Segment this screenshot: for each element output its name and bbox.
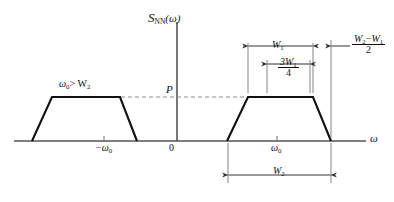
y-axis-label-argument: (ω) bbox=[165, 12, 180, 24]
tick-label-negative-omega0-symbol: −ω bbox=[95, 142, 109, 153]
fraction-w2-minus-w1-over-2: W2−W1 2 bbox=[352, 34, 385, 55]
x-axis-label: ω bbox=[370, 133, 378, 144]
tick-label-negative-omega0-subscript: 0 bbox=[109, 147, 112, 154]
amplitude-label-P: P bbox=[166, 84, 173, 95]
dimension-label-three-quarters-w1: 3W1 4 bbox=[278, 57, 299, 78]
condition-omega-symbol: ω bbox=[59, 78, 66, 89]
tick-label-positive-omega0: ω0 bbox=[271, 143, 281, 153]
fraction-numerator-symbol: 3W bbox=[280, 56, 293, 67]
y-axis-label-subscript: NN bbox=[155, 17, 166, 26]
y-axis-label: SNN(ω) bbox=[148, 11, 180, 24]
dimension-label-w1: W1 bbox=[272, 40, 284, 50]
dimension-label-half-bandwidth-difference: W2−W1 2 bbox=[352, 34, 385, 55]
y-axis-label-symbol: S bbox=[148, 10, 155, 25]
condition-omega-subscript: 0 bbox=[66, 83, 69, 90]
negative-frequency-trapezoid bbox=[32, 97, 137, 141]
numerator-w1-symbol: W bbox=[371, 33, 379, 44]
psd-plot-svg bbox=[0, 0, 394, 202]
condition-w2-subscript: 2 bbox=[87, 83, 90, 90]
condition-inequality: > W bbox=[69, 78, 87, 89]
condition-label: ω0> W2 bbox=[59, 79, 90, 89]
figure-container: SNN(ω) ω 0 −ω0 ω0 P ω0> W2 W1 3W1 4 W2 W… bbox=[0, 0, 394, 202]
dimension-label-w2: W2 bbox=[273, 166, 285, 176]
tick-label-positive-omega0-subscript: 0 bbox=[278, 147, 281, 154]
fraction-denominator: 4 bbox=[278, 68, 299, 78]
tick-label-negative-omega0: −ω0 bbox=[95, 143, 112, 153]
fraction-3w1-over-4: 3W1 4 bbox=[278, 57, 299, 78]
numerator-w1-subscript: 1 bbox=[380, 38, 383, 45]
positive-frequency-trapezoid bbox=[227, 97, 331, 141]
fraction-denominator: 2 bbox=[352, 45, 385, 55]
dimension-label-w1-subscript: 1 bbox=[280, 44, 283, 51]
tick-label-positive-omega0-symbol: ω bbox=[271, 142, 278, 153]
numerator-w2-subscript: 2 bbox=[362, 38, 365, 45]
origin-tick-label: 0 bbox=[169, 143, 174, 153]
dimension-label-w2-subscript: 2 bbox=[281, 170, 284, 177]
fraction-numerator-subscript: 1 bbox=[293, 61, 296, 68]
